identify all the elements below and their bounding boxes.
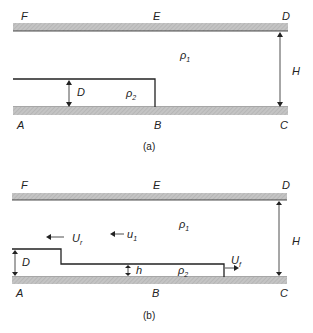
label-D: D [282, 179, 290, 191]
top-wall [12, 193, 287, 200]
label-C: C [280, 287, 288, 299]
label-B: B [154, 119, 161, 131]
caption-b: (b) [143, 310, 155, 321]
label-F: F [21, 10, 29, 22]
arrowhead-up [277, 32, 283, 37]
label-F: F [21, 179, 29, 191]
label-B: B [152, 287, 159, 299]
label-A: A [15, 287, 23, 299]
rarefaction-speed: Ur [72, 232, 83, 246]
arrowhead-up [66, 80, 72, 85]
lock-exchange-diagram: F E D ρ1 ρ2 D H A B C (a) F E D ρ1 [0, 0, 313, 333]
bottom-wall [12, 277, 287, 284]
caption-a: (a) [143, 141, 155, 152]
arrowhead-down [12, 272, 18, 276]
return-flow: u1 [127, 228, 137, 242]
label-C: C [280, 119, 288, 131]
front-speed: Uf [231, 254, 242, 268]
top-wall [13, 23, 288, 31]
height-label: H [292, 235, 300, 247]
bottom-wall [13, 107, 288, 115]
return-flow-arrow-icon [110, 231, 115, 237]
arrowhead-down [276, 272, 282, 276]
depth-label: D [77, 86, 85, 98]
label-E: E [153, 10, 161, 22]
arrowhead-up [276, 201, 282, 205]
density-upper: ρ1 [179, 49, 190, 63]
arrowhead-down [125, 273, 131, 276]
panel-a: F E D ρ1 ρ2 D H A B C (a) [13, 10, 300, 152]
arrowhead-up [12, 250, 18, 254]
arrowhead-down [277, 102, 283, 107]
panel-b: F E D ρ1 Ur u1 Uf ρ2 D h [12, 179, 300, 321]
density-upper: ρ1 [178, 218, 189, 232]
density-lower: ρ2 [125, 87, 136, 101]
label-E: E [153, 179, 161, 191]
arrowhead-down [66, 102, 72, 107]
current-depth-label: h [136, 264, 142, 276]
label-A: A [16, 119, 24, 131]
rarefaction-arrow-icon [46, 234, 51, 240]
arrowhead-up [125, 265, 131, 268]
height-label: H [292, 65, 300, 77]
label-D: D [282, 10, 290, 22]
density-lower: ρ2 [177, 264, 188, 278]
depth-label: D [22, 256, 30, 268]
gravity-current-profile [12, 249, 224, 277]
